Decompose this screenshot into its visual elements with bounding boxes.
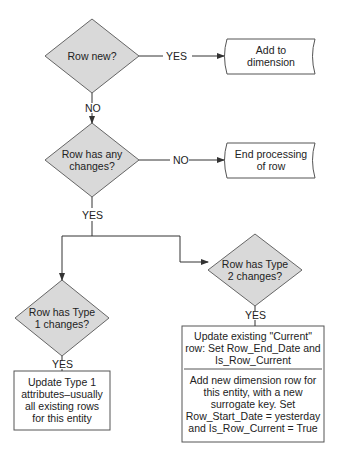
terminal-label: Add to bbox=[256, 44, 286, 56]
edge-label-type2-yes: YES bbox=[245, 309, 266, 321]
box-line: for this entity bbox=[14, 412, 110, 424]
edge-label-type1-yes: YES bbox=[52, 358, 73, 370]
decision-type2-text: Row has Type 2 changes? bbox=[215, 258, 295, 282]
decision-label: 1 changes? bbox=[35, 318, 89, 330]
box-line: attributes–usually bbox=[14, 388, 110, 400]
decision-label: changes? bbox=[69, 160, 115, 172]
terminal-label: End processing bbox=[235, 148, 307, 160]
decision-label: Row new? bbox=[67, 50, 116, 62]
decision-row-new-text: Row new? bbox=[52, 44, 132, 68]
box-line: Add new dimension row for bbox=[182, 374, 324, 386]
decision-type1-text: Row has Type 1 changes? bbox=[22, 306, 102, 330]
box-line: row: Set Row_End_Date and bbox=[182, 342, 324, 354]
terminal-label: of row bbox=[257, 160, 286, 172]
edge-label-new-yes: YES bbox=[166, 50, 187, 62]
decision-label: Row has Type bbox=[222, 258, 288, 270]
type2-box-bottom-text: Add new dimension row for this entity, w… bbox=[182, 374, 324, 434]
edge-label-new-no: NO bbox=[85, 102, 101, 114]
type2-box-top-text: Update existing "Current" row: Set Row_E… bbox=[182, 330, 324, 366]
box-line: Update Type 1 bbox=[14, 376, 110, 388]
terminal-label: dimension bbox=[247, 56, 295, 68]
box-line: Update existing "Current" bbox=[182, 330, 324, 342]
decision-label: Row has any bbox=[62, 148, 123, 160]
type1-box-text: Update Type 1 attributes–usually all exi… bbox=[14, 376, 110, 424]
box-line: Is_Row_Current bbox=[182, 354, 324, 366]
edge-label-changes-no: NO bbox=[173, 154, 189, 166]
edge-label-changes-yes: YES bbox=[82, 209, 103, 221]
box-line: all existing rows bbox=[14, 400, 110, 412]
box-line: Row_Start_Date = yesterday bbox=[182, 410, 324, 422]
box-line: surrogate key. Set bbox=[182, 398, 324, 410]
box-line: and Is_Row_Current = True bbox=[182, 422, 324, 434]
decision-row-changes-text: Row has any changes? bbox=[52, 148, 132, 172]
decision-label: Row has Type bbox=[29, 306, 95, 318]
decision-label: 2 changes? bbox=[228, 270, 282, 282]
box-line: this entity, with a new bbox=[182, 386, 324, 398]
terminal-add-dim-text: Add to dimension bbox=[228, 44, 314, 68]
terminal-end-proc-text: End processing of row bbox=[228, 148, 314, 172]
